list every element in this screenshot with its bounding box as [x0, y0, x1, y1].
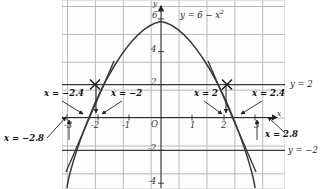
secant-line-left	[66, 61, 114, 172]
x-tick-label-neg3: -3	[64, 121, 72, 130]
annotation-x-neg-2-8: x = −2.8	[4, 134, 44, 143]
figure-container: y x O -3 -2 -1 1 2 3 6 4 2 -2 -4 y = 6 −…	[0, 0, 326, 189]
y-axis-name: y	[153, 0, 157, 8]
leader-neg-2	[102, 101, 122, 114]
annotation-x-neg-2-4: x = −2.4	[44, 89, 84, 98]
label-line-y-minus-2: y = −2	[288, 146, 318, 155]
y-tick-label-6: 6	[152, 11, 157, 20]
parabola-exponent: 2	[220, 8, 224, 15]
x-tick-label-pos3: 3	[254, 121, 259, 130]
origin-label: O	[151, 120, 158, 129]
annotation-x-pos-2-4: x = 2.4	[252, 89, 285, 98]
annotation-x-neg-2: x = −2	[111, 89, 142, 98]
parabola-equation-label: y = 6 − x2	[180, 9, 224, 19]
x-tick-label-pos1: 1	[190, 121, 195, 130]
parabola-equation-text: y = 6 − x	[180, 10, 220, 20]
y-tick-label-neg4: -4	[148, 177, 156, 186]
secant-line-right	[208, 61, 256, 172]
leader-pos-2-4	[241, 101, 262, 114]
label-line-y-2: y = 2	[290, 80, 313, 89]
annotation-x-pos-2: x = 2	[194, 89, 218, 98]
x-tick-label-neg2: -2	[91, 121, 99, 130]
y-tick-label-neg2: -2	[148, 144, 156, 153]
leader-neg-2-4	[62, 101, 83, 114]
y-tick-label-4: 4	[151, 45, 156, 54]
x-axis-name: x	[277, 110, 281, 118]
x-tick-label-neg1: -1	[122, 121, 130, 130]
annotation-x-pos-2-8: x = 2.8	[265, 130, 298, 139]
leader-pos-2	[204, 101, 222, 114]
axis-lines	[62, 6, 277, 188]
x-tick-label-pos2: 2	[221, 121, 226, 130]
y-tick-label-2: 2	[151, 78, 156, 87]
